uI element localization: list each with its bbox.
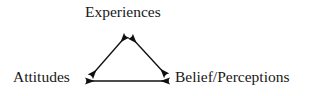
- node-label-belief: Belief/Perceptions: [175, 69, 290, 85]
- edge-attitudes-experiences: [91, 36, 126, 76]
- node-label-experiences: Experiences: [85, 4, 161, 20]
- edge-experiences-belief: [131, 37, 166, 75]
- node-label-attitudes: Attitudes: [13, 69, 70, 85]
- relationship-triangle-diagram: Experiences Attitudes Belief/Perceptions: [0, 0, 315, 96]
